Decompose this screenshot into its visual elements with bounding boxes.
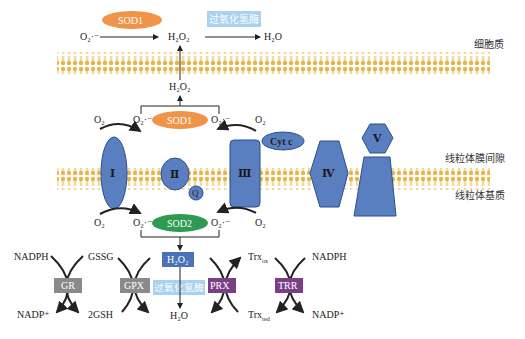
ros-pathway-diagram: 细胞质 线粒体膜间隙 线粒体基质 SOD1 O₂·⁻ H₂O₂ 过氧化氢酶 H₂… bbox=[0, 0, 525, 339]
superoxide-cyto: O₂·⁻ bbox=[80, 31, 99, 42]
trx-red-base: Trx bbox=[248, 309, 262, 320]
nadph-trr: NADPH bbox=[312, 251, 346, 262]
o2-ims-right: O₂ bbox=[255, 114, 266, 125]
superoxide-ims-right: O₂·⁻ bbox=[211, 114, 230, 125]
complex-ii-label: Ⅱ bbox=[170, 168, 179, 180]
complex-v-base bbox=[354, 157, 396, 216]
nadp-gr: NADP⁺ bbox=[17, 309, 50, 320]
superoxide-matrix-left: O₂·⁻ bbox=[133, 217, 152, 228]
curve-arrow-matrix-left bbox=[100, 208, 140, 214]
sod1-ims-label: SOD1 bbox=[167, 115, 192, 126]
curve-arrow-matrix-right bbox=[218, 208, 256, 213]
matrix-label: 线粒体基质 bbox=[455, 189, 505, 201]
sod2-label: SOD2 bbox=[167, 218, 192, 229]
h2o2-cyto: H₂O₂ bbox=[168, 31, 189, 42]
catalase-matrix-label: 过氧化氢酶 bbox=[154, 282, 204, 293]
o2-ims-left: O₂ bbox=[94, 114, 105, 125]
trr-label: TRR bbox=[278, 280, 298, 291]
nadph-gr: NADPH bbox=[14, 251, 48, 262]
curve-arrow-ims-right bbox=[218, 125, 256, 131]
prx-label: PRX bbox=[210, 280, 230, 291]
plasma-membrane bbox=[57, 52, 490, 74]
sod1-cytoplasm-label: SOD1 bbox=[118, 15, 143, 26]
cytoplasm-label: 细胞质 bbox=[474, 38, 504, 50]
trx-red: Trxred bbox=[248, 309, 270, 322]
trx-ox-base: Trx bbox=[248, 251, 262, 262]
superoxide-ims-left: O₂·⁻ bbox=[133, 114, 152, 125]
gpx-label: GPX bbox=[124, 280, 145, 291]
cytochrome-c-label: Cyt c bbox=[270, 136, 293, 147]
trx-red-sub: red bbox=[262, 316, 270, 322]
h2o-cyto: H₂O bbox=[264, 31, 282, 42]
o2-matrix-right: O₂ bbox=[255, 217, 266, 228]
trx-ox: Trxox bbox=[248, 251, 268, 264]
2gsh: 2GSH bbox=[88, 309, 113, 320]
o2-matrix-left: O₂ bbox=[94, 217, 105, 228]
h2o2-matrix-label: H₂O₂ bbox=[167, 254, 188, 265]
curve-arrow-ims-left bbox=[100, 124, 140, 131]
h2o-matrix: H₂O bbox=[170, 310, 188, 321]
gr-label: GR bbox=[61, 280, 75, 291]
h2o2-ims: H₂O₂ bbox=[169, 81, 190, 92]
trx-ox-sub: ox bbox=[262, 258, 268, 264]
superoxide-matrix-right: O₂·⁻ bbox=[211, 217, 230, 228]
nadp-trr: NADP⁺ bbox=[312, 309, 345, 320]
intermembrane-space-label: 线粒体膜间隙 bbox=[445, 152, 505, 164]
ubiquinone-label: Q bbox=[192, 188, 199, 198]
gssg: GSSG bbox=[88, 251, 114, 262]
complex-i-label: Ⅰ bbox=[110, 167, 115, 179]
catalase-cyto-label: 过氧化氢酶 bbox=[209, 13, 259, 25]
complex-iv-label: Ⅳ bbox=[322, 167, 335, 179]
complex-v-label: Ⅴ bbox=[372, 132, 382, 144]
complex-iii-label: Ⅲ bbox=[238, 167, 251, 179]
